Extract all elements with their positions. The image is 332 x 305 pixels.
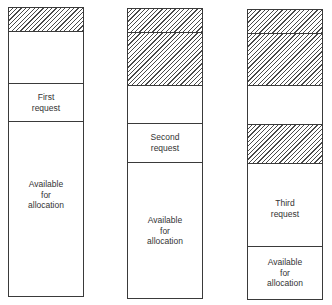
first-request-block: First request — [9, 83, 83, 121]
available-label: Available for allocation — [9, 179, 83, 211]
available-label: Available for allocation — [128, 215, 202, 247]
memory-column-third: Third request Available for allocation — [247, 9, 323, 300]
allocated-block-first-request — [128, 32, 202, 85]
allocated-block — [248, 10, 322, 33]
third-request-label: Third request — [248, 198, 322, 219]
allocated-block-first-request — [248, 33, 322, 85]
allocated-block — [9, 8, 83, 31]
second-request-label: Second request — [128, 132, 202, 153]
allocated-block — [128, 9, 202, 32]
available-block: Available for allocation — [9, 121, 83, 296]
first-request-label: First request — [9, 92, 83, 113]
third-request-block: Third request — [248, 163, 322, 246]
memory-column-second: Second request Available for allocation — [127, 8, 203, 299]
memory-column-first: First request Available for allocation — [8, 7, 84, 297]
allocated-block-second-request — [248, 124, 322, 163]
free-block — [9, 31, 83, 83]
available-block: Available for allocation — [128, 162, 202, 298]
second-request-block: Second request — [128, 123, 202, 162]
available-label: Available for allocation — [248, 257, 322, 289]
free-block — [248, 85, 322, 124]
available-block: Available for allocation — [248, 246, 322, 299]
free-block — [128, 85, 202, 123]
